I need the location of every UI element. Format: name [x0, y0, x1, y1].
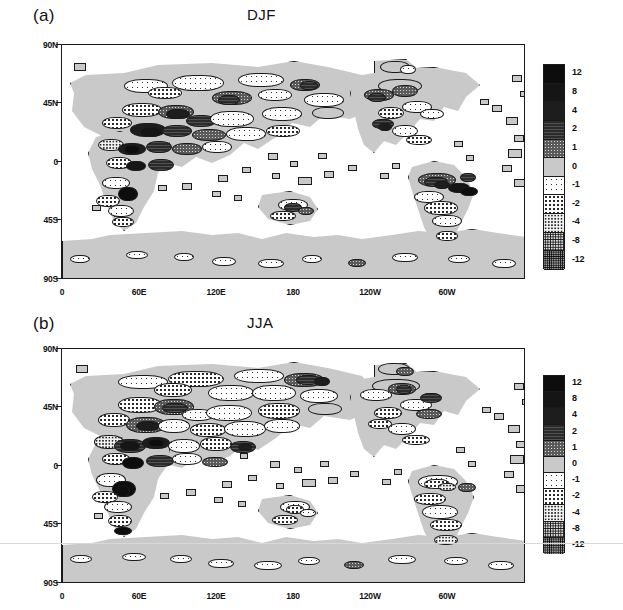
map-shade-blob [202, 457, 228, 467]
map-shade-blob [252, 385, 296, 401]
map-shade-blob [416, 409, 442, 419]
map-grid-cell [508, 425, 520, 433]
panel-b-xlabel-120e: 120E [199, 591, 233, 601]
colorbar-tick-label: 12 [572, 377, 582, 387]
map-shade-blob [190, 423, 226, 437]
colorbar-band [544, 140, 564, 159]
panel-b-xlabel-60w: 60W [430, 591, 464, 601]
map-shade-blob [258, 259, 284, 268]
colorbar-tick-label: 2 [572, 123, 577, 133]
scan-rule [0, 543, 623, 544]
map-shade-blob [300, 81, 318, 90]
map-shade-blob [192, 129, 226, 141]
colorbar-band [544, 408, 564, 424]
map-shade-blob [238, 443, 252, 451]
colorbar-band [544, 214, 564, 233]
map-grid-cell [492, 105, 502, 112]
map-shade-blob [396, 385, 412, 394]
map-grid-cell [516, 441, 525, 448]
map-shade-blob [174, 253, 194, 261]
map-shade-blob [238, 73, 284, 87]
colorbar-band [544, 251, 564, 270]
map-grid-cell [218, 175, 228, 182]
map-grid-cell [290, 161, 298, 167]
map-shade-blob [406, 135, 432, 145]
map-shade-blob [120, 441, 140, 451]
map-shade-blob [108, 205, 134, 217]
map-shade-blob [436, 231, 458, 241]
colorbar-tick-label: 8 [572, 393, 577, 403]
map-shade-blob [448, 255, 470, 263]
colorbar-a [543, 64, 565, 269]
map-shade-blob [300, 509, 316, 517]
map-grid-cell [214, 497, 223, 503]
map-grid-cell [514, 179, 525, 187]
map-shade-blob [302, 255, 322, 263]
map-grid-cell [392, 163, 400, 169]
map-grid-cell [182, 183, 192, 190]
map-grid-cell [272, 173, 280, 179]
colorbar-tick-label: -1 [572, 179, 580, 189]
map-shade-blob [492, 259, 516, 268]
panel-a-ylabel-45s: 45S [30, 215, 58, 225]
panel-b-ylabel-90s: 90S [30, 578, 58, 588]
map-shade-blob [108, 515, 132, 527]
map-grid-cell [348, 165, 357, 171]
colorbar-tick-label: 0 [572, 161, 577, 171]
map-shade-blob [148, 159, 174, 171]
map-grid-cell [76, 365, 88, 373]
panel-b-ylabel-45n: 45N [30, 402, 58, 412]
map-shade-blob [348, 259, 366, 267]
colorbar-band [544, 425, 564, 441]
map-grid-cell [380, 173, 389, 179]
map-grid-cell [510, 455, 524, 464]
map-shade-blob [424, 201, 458, 215]
panel-a-title: DJF [247, 6, 276, 23]
map-grid-cell [454, 141, 463, 147]
colorbar-tick-label: 2 [572, 426, 577, 436]
panel-a-xlabel-0: 0 [45, 287, 79, 297]
map-shade-blob [208, 559, 234, 568]
map-shade-blob [266, 125, 300, 137]
map-shade-blob [148, 439, 164, 447]
colorbar-tick-label: 4 [572, 409, 577, 419]
panel-a-map [61, 44, 525, 279]
map-shade-blob [122, 103, 162, 117]
map-shade-blob [438, 483, 456, 491]
colorbar-band [544, 392, 564, 408]
map-shade-blob [162, 125, 192, 137]
map-shade-blob [460, 173, 476, 182]
map-shade-blob [262, 107, 302, 121]
panel-a-xlabel-120w: 120W [353, 287, 387, 297]
colorbar-band [544, 457, 564, 473]
colorbar-tick-label: -1 [572, 474, 580, 484]
map-shade-blob [378, 123, 392, 131]
colorbar-tick-label: -8 [572, 523, 580, 533]
map-grid-cell [502, 165, 512, 172]
map-shade-blob [430, 519, 462, 531]
colorbar-band [544, 505, 564, 521]
map-shade-blob [392, 253, 418, 262]
map-grid-cell [248, 475, 257, 481]
map-shade-blob [126, 161, 146, 171]
map-grid-cell [514, 383, 524, 390]
map-shade-blob [104, 501, 132, 513]
map-grid-cell [520, 91, 525, 97]
map-grid-cell [508, 149, 522, 158]
map-grid-cell [350, 471, 359, 477]
map-shade-blob [146, 455, 174, 467]
panel-b-xlabel-120w: 120W [353, 591, 387, 601]
map-shade-blob [154, 383, 192, 397]
map-grid-cell [74, 63, 86, 71]
map-shade-blob [70, 255, 90, 263]
map-shade-blob [158, 419, 190, 433]
colorbar-band [544, 121, 564, 140]
colorbar-tick-label: 1 [572, 142, 577, 152]
colorbar-band [544, 376, 564, 392]
map-shade-blob [258, 403, 300, 419]
map-grid-cell [382, 479, 391, 485]
panel-b-map [61, 348, 525, 583]
map-shade-blob [344, 561, 364, 569]
colorbar-band [544, 195, 564, 214]
map-shade-blob [146, 141, 172, 153]
